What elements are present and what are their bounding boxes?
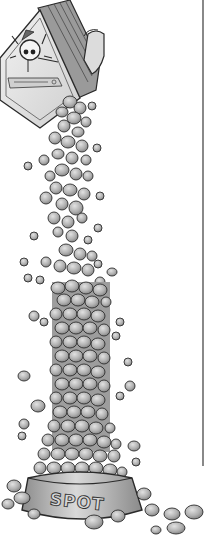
kibble-column — [18, 280, 140, 477]
dog-food-illustration: SPOT — [0, 0, 216, 545]
food-box — [0, 0, 104, 128]
